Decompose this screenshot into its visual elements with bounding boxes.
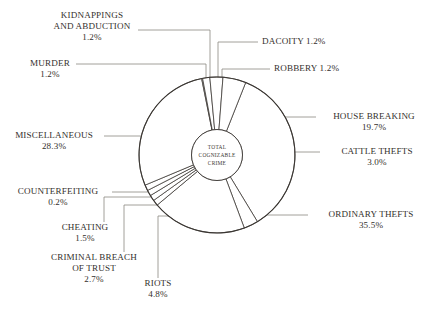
- callout-murder-pct: 1.2%: [18, 69, 82, 80]
- callout-criminal-breach-line1: CRIMINAL BREACH: [51, 252, 137, 262]
- callout-house-breaking: HOUSE BREAKING 19.7%: [318, 111, 430, 133]
- callout-kidnappings-line1: KIDNAPPINGS: [61, 10, 123, 20]
- callout-riots: RIOTS 4.8%: [130, 278, 186, 300]
- callout-cheating-pct: 1.5%: [52, 233, 118, 244]
- hub-label-line1: TOTAL: [208, 144, 226, 150]
- callout-kidnappings: KIDNAPPINGS AND ABDUCTION 1.2%: [34, 10, 150, 44]
- callout-dacoity: DACOITY 1.2%: [262, 36, 326, 47]
- callout-cheating: CHEATING 1.5%: [52, 222, 118, 244]
- callout-cattle-thefts-line1: CATTLE THEFTS: [341, 146, 412, 156]
- callout-kidnappings-line2: AND ABDUCTION: [54, 21, 131, 31]
- callout-dacoity-text: DACOITY 1.2%: [262, 36, 326, 46]
- callout-riots-line1: RIOTS: [144, 278, 171, 288]
- callout-miscellaneous-pct: 28.3%: [4, 141, 104, 152]
- callout-counterfeiting-pct: 0.2%: [6, 197, 110, 208]
- callout-ordinary-thefts-line1: ORDINARY THEFTS: [329, 209, 414, 219]
- callout-cattle-thefts: CATTLE THEFTS 3.0%: [324, 146, 430, 168]
- callout-robbery: ROBBERY 1.2%: [274, 63, 339, 74]
- callout-robbery-text: ROBBERY 1.2%: [274, 63, 339, 73]
- hub-label-line3: CRIME: [208, 160, 227, 166]
- callout-ordinary-thefts-pct: 35.5%: [312, 220, 430, 231]
- callout-house-breaking-line1: HOUSE BREAKING: [333, 111, 415, 121]
- callout-miscellaneous-line1: MISCELLANEOUS: [15, 130, 93, 140]
- callout-murder-line1: MURDER: [30, 58, 70, 68]
- callout-counterfeiting: COUNTERFEITING 0.2%: [6, 186, 110, 208]
- callout-miscellaneous: MISCELLANEOUS 28.3%: [4, 130, 104, 152]
- callout-counterfeiting-line1: COUNTERFEITING: [18, 186, 98, 196]
- leader-line-riots: [158, 216, 186, 278]
- callout-cattle-thefts-pct: 3.0%: [324, 157, 430, 168]
- callout-cheating-line1: CHEATING: [62, 222, 109, 232]
- callout-criminal-breach-line2: OF TRUST: [72, 263, 116, 273]
- callout-house-breaking-pct: 19.7%: [318, 122, 430, 133]
- leader-line-murder: [76, 64, 206, 79]
- hub-label-line2: COGNIZABLE: [199, 152, 236, 158]
- pie-chart-figure: TOTAL COGNIZABLE CRIME KIDNAPPINGS AND A…: [0, 0, 435, 323]
- callout-kidnappings-pct: 1.2%: [34, 32, 150, 43]
- callout-murder: MURDER 1.2%: [18, 58, 82, 80]
- callout-ordinary-thefts: ORDINARY THEFTS 35.5%: [312, 209, 430, 231]
- leader-line-dacoity: [218, 42, 258, 78]
- callout-riots-pct: 4.8%: [130, 289, 186, 300]
